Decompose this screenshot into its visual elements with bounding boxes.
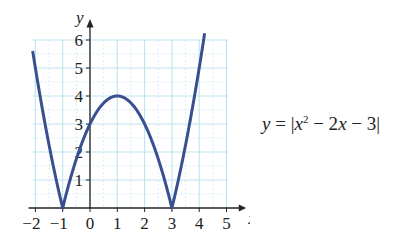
- svg-text:y: y: [74, 8, 84, 27]
- svg-text:−2: −2: [22, 214, 40, 233]
- svg-text:−1: −1: [50, 214, 68, 233]
- svg-text:1: 1: [113, 214, 122, 233]
- svg-text:5: 5: [75, 59, 84, 78]
- svg-text:6: 6: [75, 31, 84, 50]
- svg-text:2: 2: [140, 214, 149, 233]
- svg-text:3: 3: [75, 115, 84, 134]
- axes: [29, 19, 247, 212]
- svg-text:4: 4: [75, 87, 84, 106]
- svg-text:4: 4: [195, 214, 204, 233]
- svg-text:3: 3: [168, 214, 177, 233]
- curve-abs-quadratic: [33, 33, 205, 208]
- svg-text:5: 5: [222, 214, 231, 233]
- function-graph: −2−1012345123456xy: [0, 0, 250, 236]
- svg-text:x: x: [247, 209, 250, 228]
- tick-labels: −2−1012345123456xy: [22, 8, 250, 233]
- svg-text:1: 1: [75, 171, 84, 190]
- equation-label: y = |x2 − 2x − 3|: [262, 113, 380, 135]
- svg-text:0: 0: [86, 214, 95, 233]
